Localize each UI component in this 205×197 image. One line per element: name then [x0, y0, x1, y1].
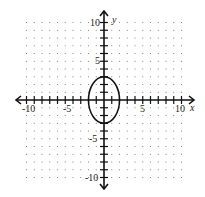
x-tick-label-neg5: -5	[63, 103, 71, 114]
x-tick-label-neg10: -10	[22, 103, 35, 114]
y-tick-label-neg10: -10	[85, 172, 98, 183]
x-tick-label-10: 10	[175, 103, 185, 114]
y-tick-label-5: 5	[95, 55, 100, 66]
x-tick-label-5: 5	[140, 103, 145, 114]
x-axis-label: x	[189, 102, 195, 113]
coordinate-plane: y x -10 -5 5 10 10 5 -5 -10	[0, 0, 205, 197]
y-tick-label-10: 10	[90, 17, 100, 28]
y-axis-label: y	[111, 14, 117, 25]
y-tick-label-neg5: -5	[89, 133, 97, 144]
